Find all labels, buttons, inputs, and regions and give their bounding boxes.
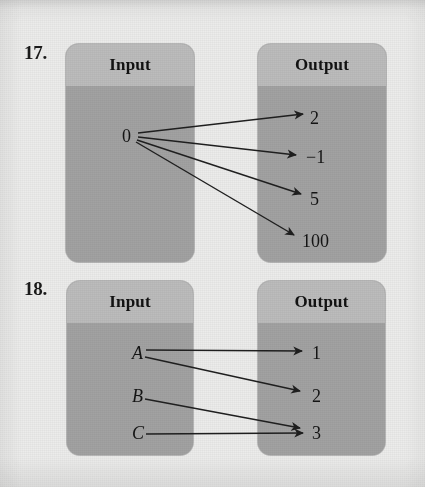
input-box-18-header: Input — [67, 281, 193, 323]
output-box-18-header: Output — [258, 281, 385, 323]
input-item-18-c: C — [132, 423, 144, 444]
input-box-17-title: Input — [109, 55, 151, 75]
input-box-18-title: Input — [109, 292, 151, 312]
output-box-18-title: Output — [294, 292, 348, 312]
problem-number-17: 17. — [24, 42, 47, 64]
input-item-18-b: B — [132, 386, 143, 407]
input-box-18-body — [67, 323, 193, 455]
output-box-18: Output — [258, 281, 385, 455]
figure-page: 17. Input Output 0 2 −1 5 100 18. Input … — [0, 0, 425, 487]
input-box-17: Input — [66, 44, 194, 262]
output-item-18-2: 2 — [312, 386, 321, 407]
input-box-17-body — [66, 86, 194, 262]
output-item-18-1: 1 — [312, 343, 321, 364]
output-box-18-body — [258, 323, 385, 455]
output-box-17-header: Output — [258, 44, 386, 86]
output-box-17-title: Output — [295, 55, 349, 75]
input-box-17-header: Input — [66, 44, 194, 86]
input-box-18: Input — [67, 281, 193, 455]
output-item-17-2: 2 — [310, 108, 319, 129]
output-item-18-3: 3 — [312, 423, 321, 444]
output-item-17-minus1: −1 — [306, 147, 325, 168]
output-item-17-5: 5 — [310, 189, 319, 210]
output-item-17-100: 100 — [302, 231, 329, 252]
input-item-17-0: 0 — [122, 126, 131, 147]
problem-number-18: 18. — [24, 278, 47, 300]
input-item-18-a: A — [132, 343, 143, 364]
